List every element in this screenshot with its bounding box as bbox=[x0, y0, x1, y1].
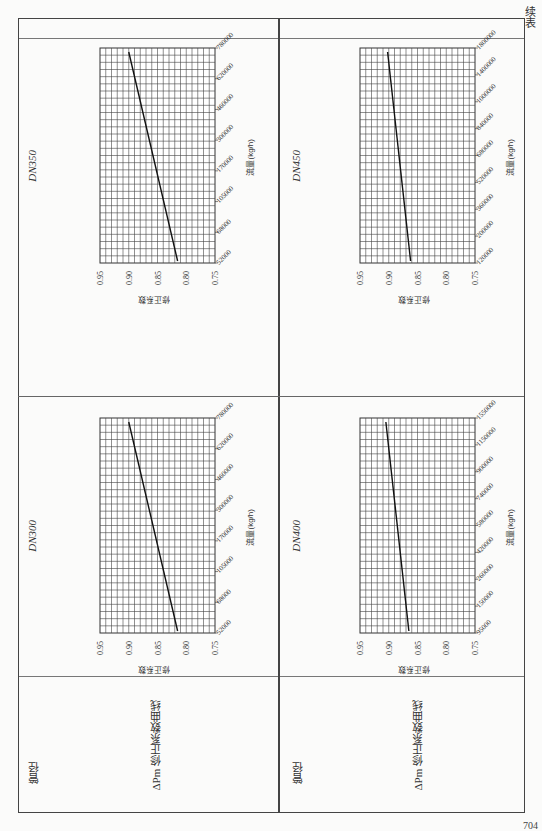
svg-text:680000: 680000 bbox=[475, 138, 496, 159]
chart-dn300: 0.950.900.850.800.75修正系数5200068000105000… bbox=[80, 410, 270, 670]
chart-dn400-svg: 0.950.900.850.800.75修正系数9500015000026000… bbox=[340, 410, 530, 670]
svg-text:1000000: 1000000 bbox=[475, 82, 498, 105]
svg-text:0.90: 0.90 bbox=[385, 271, 394, 285]
table-top-border bbox=[18, 18, 524, 19]
chart-dn450: 0.950.900.850.800.75修正系数1200002000003600… bbox=[340, 40, 530, 300]
chart-dn400: 0.950.900.850.800.75修正系数9500015000026000… bbox=[340, 410, 530, 670]
svg-text:170000: 170000 bbox=[215, 523, 236, 544]
pipe-size-dn400: DN400 bbox=[290, 520, 302, 552]
table-middle-divider bbox=[278, 18, 280, 813]
svg-text:460000: 460000 bbox=[215, 92, 236, 113]
row-header-label-left: 管径 bbox=[26, 762, 42, 784]
svg-text:0.85: 0.85 bbox=[154, 641, 163, 655]
svg-text:170000: 170000 bbox=[215, 153, 236, 174]
svg-text:200000: 200000 bbox=[475, 219, 496, 240]
svg-text:1550000: 1550000 bbox=[475, 398, 498, 421]
svg-text:0.75: 0.75 bbox=[471, 641, 480, 655]
svg-text:620000: 620000 bbox=[215, 61, 236, 82]
svg-text:780000: 780000 bbox=[215, 31, 236, 52]
document-page: 续表 管径 ΔPm 修正系数曲线 管径 ΔPm 修正系数曲线 DN300 DN3… bbox=[0, 0, 542, 831]
svg-text:0.95: 0.95 bbox=[356, 641, 365, 655]
svg-text:0.80: 0.80 bbox=[442, 641, 451, 655]
chart-dn350-svg: 0.950.900.850.800.75修正系数5200068000105000… bbox=[80, 40, 270, 300]
row-curve-label-left: ΔPm 修正系数曲线 bbox=[148, 700, 164, 791]
row-header-label-right: 管径 bbox=[290, 762, 306, 784]
svg-text:300000: 300000 bbox=[215, 493, 236, 514]
svg-text:0.90: 0.90 bbox=[125, 641, 134, 655]
svg-text:68000: 68000 bbox=[215, 587, 233, 605]
row-curve-label-right: ΔPm 修正系数曲线 bbox=[410, 700, 426, 791]
svg-text:520000: 520000 bbox=[475, 165, 496, 186]
svg-text:52000: 52000 bbox=[215, 618, 233, 636]
svg-text:0.80: 0.80 bbox=[442, 271, 451, 285]
table-header-divider bbox=[18, 38, 524, 39]
page-number: 704 bbox=[523, 820, 538, 831]
svg-text:0.95: 0.95 bbox=[356, 271, 365, 285]
svg-text:105000: 105000 bbox=[215, 554, 236, 575]
svg-text:修正系数: 修正系数 bbox=[398, 295, 430, 305]
svg-text:740000: 740000 bbox=[475, 481, 496, 502]
svg-text:1800000: 1800000 bbox=[475, 28, 498, 51]
svg-text:105000: 105000 bbox=[215, 184, 236, 205]
svg-text:0.90: 0.90 bbox=[385, 641, 394, 655]
chart-dn350: 0.950.900.850.800.75修正系数5200068000105000… bbox=[80, 40, 270, 300]
svg-text:260000: 260000 bbox=[475, 562, 496, 583]
svg-text:修正系数: 修正系数 bbox=[138, 665, 170, 675]
svg-text:95000: 95000 bbox=[475, 618, 493, 636]
svg-text:0.75: 0.75 bbox=[211, 641, 220, 655]
svg-text:0.85: 0.85 bbox=[414, 641, 423, 655]
svg-text:流量(kg/h): 流量(kg/h) bbox=[245, 509, 255, 546]
svg-text:150000: 150000 bbox=[475, 589, 496, 610]
svg-text:52000: 52000 bbox=[215, 248, 233, 266]
svg-text:0.90: 0.90 bbox=[125, 271, 134, 285]
svg-text:流量(kg/h): 流量(kg/h) bbox=[245, 139, 255, 176]
table-bottom-border bbox=[18, 812, 524, 813]
pipe-size-dn300: DN300 bbox=[26, 520, 38, 552]
pipe-size-dn350: DN350 bbox=[26, 150, 38, 182]
svg-text:1150000: 1150000 bbox=[475, 425, 498, 448]
svg-text:0.75: 0.75 bbox=[471, 271, 480, 285]
svg-text:流量(kg/h): 流量(kg/h) bbox=[505, 139, 515, 176]
svg-text:780000: 780000 bbox=[215, 401, 236, 422]
svg-text:0.80: 0.80 bbox=[182, 271, 191, 285]
svg-text:0.95: 0.95 bbox=[96, 641, 105, 655]
svg-text:0.85: 0.85 bbox=[414, 271, 423, 285]
table-left-border bbox=[18, 18, 19, 813]
svg-text:620000: 620000 bbox=[215, 431, 236, 452]
pipe-size-dn450: DN450 bbox=[290, 150, 302, 182]
svg-text:0.95: 0.95 bbox=[96, 271, 105, 285]
svg-text:流量(kg/h): 流量(kg/h) bbox=[505, 509, 515, 546]
svg-text:900000: 900000 bbox=[475, 454, 496, 475]
table-label-divider bbox=[18, 676, 524, 677]
svg-text:460000: 460000 bbox=[215, 462, 236, 483]
svg-text:300000: 300000 bbox=[215, 123, 236, 144]
table-row-divider bbox=[18, 396, 524, 397]
svg-text:120000: 120000 bbox=[475, 246, 496, 267]
svg-text:360000: 360000 bbox=[475, 192, 496, 213]
svg-text:0.80: 0.80 bbox=[182, 641, 191, 655]
svg-text:580000: 580000 bbox=[475, 508, 496, 529]
svg-text:0.75: 0.75 bbox=[211, 271, 220, 285]
svg-text:1400000: 1400000 bbox=[475, 55, 498, 78]
svg-text:0.85: 0.85 bbox=[154, 271, 163, 285]
chart-dn450-svg: 0.950.900.850.800.75修正系数1200002000003600… bbox=[340, 40, 530, 300]
svg-text:420000: 420000 bbox=[475, 535, 496, 556]
svg-text:修正系数: 修正系数 bbox=[138, 295, 170, 305]
chart-dn300-svg: 0.950.900.850.800.75修正系数5200068000105000… bbox=[80, 410, 270, 670]
svg-text:840000: 840000 bbox=[475, 111, 496, 132]
svg-text:68000: 68000 bbox=[215, 217, 233, 235]
svg-text:修正系数: 修正系数 bbox=[398, 665, 430, 675]
